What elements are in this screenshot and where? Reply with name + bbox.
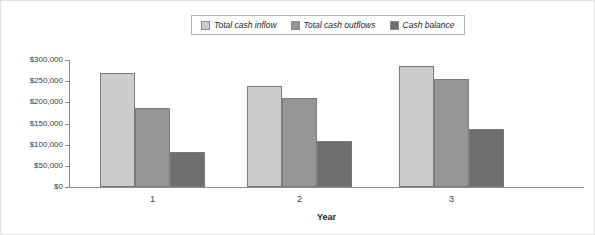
legend-item[interactable]: Cash balance [390, 20, 455, 30]
bar-group [247, 60, 352, 187]
bar-group [100, 60, 205, 187]
bar[interactable] [135, 108, 170, 187]
y-axis-line [69, 60, 70, 188]
y-axis-tick-label: $250,000 [30, 77, 63, 85]
cash-flow-bar-chart: Total cash inflowTotal cash outflowsCash… [0, 0, 595, 235]
y-axis-tick-mark [65, 102, 69, 103]
x-axis-title: Year [69, 212, 584, 222]
y-axis-tick-label: $150,000 [30, 120, 63, 128]
bar[interactable] [469, 129, 504, 187]
bar[interactable] [247, 86, 282, 187]
y-axis-tick-mark [65, 60, 69, 61]
y-axis-tick-mark [65, 145, 69, 146]
legend-item[interactable]: Total cash outflows [291, 20, 376, 30]
plot-area: $0$50,000$100,000$150,000$200,000$250,00… [69, 60, 584, 188]
x-axis-tick-label: 3 [399, 194, 504, 204]
chart-legend: Total cash inflowTotal cash outflowsCash… [191, 15, 465, 35]
legend-item[interactable]: Total cash inflow [201, 20, 277, 30]
y-axis-tick-label: $100,000 [30, 141, 63, 149]
bar[interactable] [170, 152, 205, 187]
y-axis-tick-mark [65, 166, 69, 167]
bar[interactable] [282, 98, 317, 187]
y-axis-tick-mark [65, 81, 69, 82]
bar[interactable] [100, 73, 135, 187]
bar[interactable] [399, 66, 434, 187]
legend-swatch-icon [291, 21, 300, 30]
y-axis-tick-label: $50,000 [34, 162, 63, 170]
legend-item-label: Total cash outflows [304, 20, 376, 30]
y-axis-tick-label: $300,000 [30, 56, 63, 64]
bar[interactable] [317, 141, 352, 187]
y-axis-tick-label: $0 [54, 183, 63, 191]
bar-group [399, 60, 504, 187]
y-axis-tick-mark [65, 124, 69, 125]
x-axis-tick-label: 1 [100, 194, 205, 204]
y-axis-tick-mark [65, 187, 69, 188]
legend-swatch-icon [390, 21, 399, 30]
x-axis-line [69, 187, 584, 188]
x-axis-tick-label: 2 [247, 194, 352, 204]
bar[interactable] [434, 79, 469, 187]
legend-item-label: Cash balance [403, 20, 455, 30]
legend-swatch-icon [201, 21, 210, 30]
y-axis-tick-label: $200,000 [30, 98, 63, 106]
legend-item-label: Total cash inflow [214, 20, 277, 30]
